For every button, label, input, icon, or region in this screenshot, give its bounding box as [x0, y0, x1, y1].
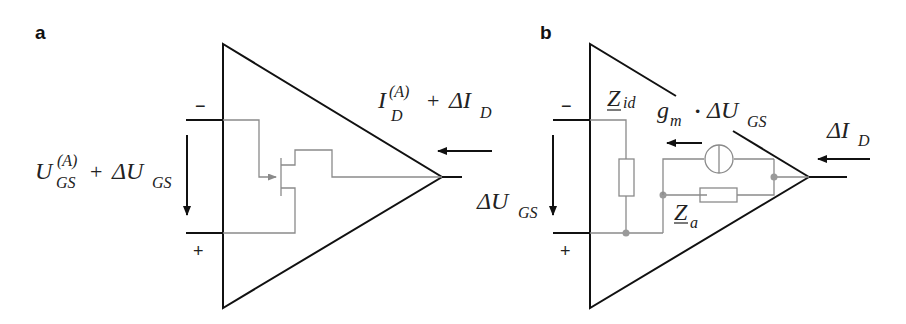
diagram-canvas: a − + U (A) GS + ΔU GS I (A) D + ΔI D — [0, 0, 906, 324]
minus-sign-b: − — [561, 96, 572, 116]
fet-symbol — [223, 120, 442, 233]
minus-sign-a: − — [195, 96, 206, 116]
svg-text:D: D — [390, 107, 403, 124]
svg-text:m: m — [670, 112, 682, 129]
small-signal-circuit — [590, 120, 809, 237]
svg-text:ΔU: ΔU — [706, 97, 740, 123]
svg-text:U: U — [35, 158, 54, 184]
panel-a-label: a — [35, 22, 46, 43]
plus-sign-b: + — [560, 241, 571, 261]
panel-a: a − + U (A) GS + ΔU GS I (A) D + ΔI D — [35, 22, 492, 308]
svg-text:g: g — [657, 97, 669, 123]
svg-text:+: + — [90, 159, 102, 184]
svg-text:GS: GS — [747, 113, 767, 130]
input-voltage-label-b: ΔU GS — [476, 188, 538, 221]
svg-text:ΔU: ΔU — [476, 188, 510, 214]
svg-text:ΔI: ΔI — [826, 117, 850, 143]
node-right — [771, 174, 778, 181]
svg-text:id: id — [623, 94, 636, 111]
svg-text:GS: GS — [56, 174, 76, 191]
node-plus — [623, 230, 630, 237]
svg-text:+: + — [427, 88, 439, 113]
svg-text:a: a — [690, 214, 698, 231]
svg-text:ΔU: ΔU — [111, 158, 145, 184]
svg-text:GS: GS — [518, 204, 538, 221]
svg-text:D: D — [857, 132, 870, 149]
current-source-label: g m · ΔU GS — [657, 97, 767, 130]
svg-text:D: D — [479, 104, 492, 121]
output-impedance-label: Z a — [674, 199, 698, 231]
svg-text:I: I — [377, 87, 387, 113]
svg-text:GS: GS — [152, 174, 172, 191]
panel-b: b − + ΔU GS Z id g m · ΔU GS — [476, 22, 870, 308]
panel-b-label: b — [540, 22, 552, 43]
svg-text:·: · — [694, 98, 701, 123]
svg-text:Z: Z — [607, 85, 621, 111]
input-voltage-label-a: U (A) GS + ΔU GS — [35, 152, 172, 191]
output-current-label-a: I (A) D + ΔI D — [377, 83, 492, 124]
svg-text:Z: Z — [674, 199, 688, 225]
svg-text:ΔI: ΔI — [448, 87, 472, 113]
svg-text:(A): (A) — [57, 152, 77, 170]
amplifier-triangle-b-upper-right — [733, 131, 809, 177]
output-current-label-b: ΔI D — [826, 117, 870, 149]
plus-sign-a: + — [193, 241, 204, 261]
svg-text:(A): (A) — [389, 83, 409, 101]
input-impedance-label: Z id — [607, 85, 636, 111]
input-impedance-resistor — [619, 159, 634, 196]
